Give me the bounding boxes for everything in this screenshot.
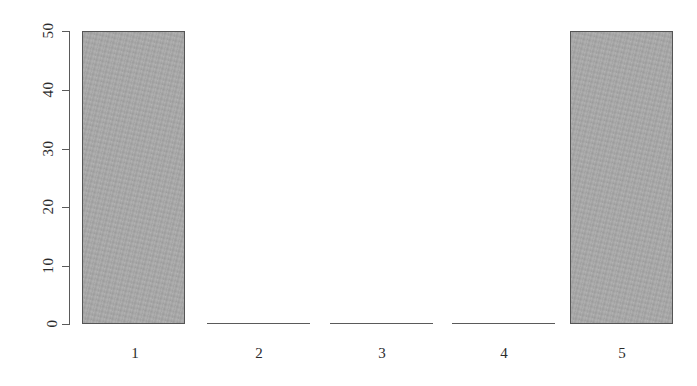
- y-axis-line: [69, 31, 70, 324]
- bar-5: [570, 31, 673, 324]
- y-axis-tick-label: 10: [0, 257, 56, 274]
- y-axis-tick: [62, 207, 70, 208]
- bar-2: [207, 323, 310, 324]
- y-axis-tick: [62, 31, 70, 32]
- y-axis-tick: [62, 324, 70, 325]
- x-axis-tick-label: 2: [255, 345, 263, 362]
- bar-1: [82, 31, 185, 324]
- y-axis-tick-label: 30: [0, 140, 56, 157]
- y-axis-tick-label: 20: [0, 198, 56, 215]
- x-axis-tick-label: 1: [131, 345, 139, 362]
- x-axis-tick-label: 4: [500, 345, 508, 362]
- y-axis-tick-label: 50: [0, 22, 56, 39]
- bar-3: [330, 323, 433, 324]
- x-axis-tick-label: 3: [378, 345, 386, 362]
- y-axis-tick-label: 0: [0, 315, 56, 332]
- y-axis-tick-label: 40: [0, 81, 56, 98]
- plot-area: 50 40 30 20 10 0 1 2 3 4 5: [0, 0, 697, 386]
- y-axis-tick: [62, 149, 70, 150]
- bar-chart: 50 40 30 20 10 0 1 2 3 4 5: [0, 0, 697, 386]
- y-axis-tick: [62, 90, 70, 91]
- bar-4: [452, 323, 555, 324]
- x-axis-tick-label: 5: [618, 345, 626, 362]
- y-axis-tick: [62, 266, 70, 267]
